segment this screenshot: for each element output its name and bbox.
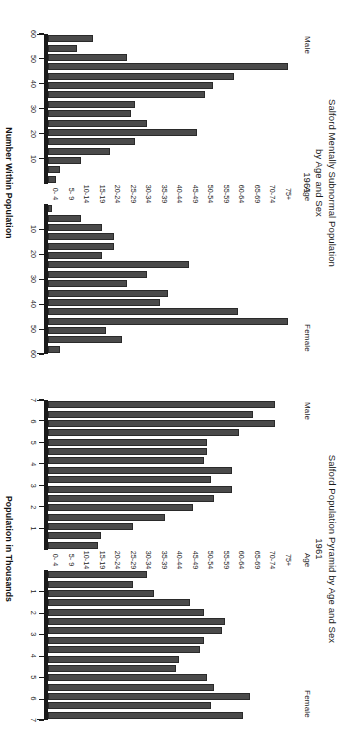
axis-tick	[39, 463, 44, 464]
bar-male-15-19	[48, 429, 239, 436]
axis-tick	[39, 254, 44, 255]
bar-slot	[48, 438, 296, 447]
bar-slot	[48, 466, 296, 475]
bar-male-65-69	[48, 523, 133, 530]
axis-tick-label: 30	[29, 105, 38, 113]
bar-slot	[48, 626, 296, 635]
axis-tick	[39, 158, 44, 159]
bar-male-35-39	[48, 101, 135, 108]
bar-female-75+	[48, 571, 147, 578]
bar-female-55-59	[48, 243, 114, 250]
bar-slot	[48, 223, 296, 232]
age-group-label: 75+	[284, 188, 293, 200]
age-group-label: 35-39	[160, 551, 169, 569]
axis-tick-label: 7	[29, 718, 38, 722]
bar-slot	[48, 90, 296, 99]
bar-slot	[48, 570, 296, 579]
axis-tick	[39, 677, 44, 678]
axis-tick	[39, 528, 44, 529]
axis-tick	[39, 506, 44, 507]
bar-slot	[48, 409, 296, 418]
female-baseline	[46, 204, 48, 354]
bar-slot	[48, 279, 296, 288]
axis-tick	[39, 720, 44, 721]
axis-tick-label: 50	[29, 325, 38, 333]
bar-slot	[48, 579, 296, 588]
bar-slot	[48, 307, 296, 316]
bar-slot	[48, 475, 296, 484]
age-group-label-slot: 20-24	[110, 184, 126, 204]
age-group-label: 10-14	[82, 185, 91, 203]
age-group-label-slot: 25-29	[126, 550, 142, 570]
bar-slot	[48, 251, 296, 260]
bar-male-5-9	[48, 411, 253, 418]
axis-tick	[39, 304, 44, 305]
bar-female-5-9	[48, 702, 211, 709]
bar-female-40-44	[48, 637, 204, 644]
title-line: by Age and Sex	[313, 0, 326, 366]
age-group-label: 15-19	[98, 185, 107, 203]
bar-slot	[48, 494, 296, 503]
male-bar-group	[48, 34, 296, 184]
age-group-label-slot: 35-39	[157, 184, 173, 204]
bar-slot	[48, 692, 296, 701]
male-value-axis: 1234567	[44, 400, 46, 550]
age-axis-header: Age	[303, 184, 312, 204]
male-value-axis: 102030405060	[44, 34, 46, 184]
axis-tick	[39, 485, 44, 486]
axis-tick	[39, 442, 44, 443]
bar-male-30-34	[48, 91, 205, 98]
bar-female-65-69	[48, 590, 154, 597]
female-series-label: Female	[303, 324, 312, 352]
bar-slot	[48, 128, 296, 137]
bar-male-50-54	[48, 129, 197, 136]
age-group-label-slot: 45-49	[188, 550, 204, 570]
bar-male-25-29	[48, 448, 207, 455]
age-group-label: 65-69	[253, 185, 262, 203]
bar-male-50-54	[48, 495, 215, 502]
axis-tick-label: 2	[29, 505, 38, 509]
age-group-label: 0- 4	[51, 188, 60, 200]
age-group-label-slot: 75+	[281, 184, 297, 204]
bar-slot	[48, 673, 296, 682]
bar-slot	[48, 428, 296, 437]
bar-male-55-59	[48, 138, 135, 145]
axis-tick	[39, 229, 44, 230]
rotated-figure-stage: Salford Mentally Subnormal Population by…	[0, 0, 344, 732]
age-group-label-slot: 70-74	[265, 184, 281, 204]
bar-slot	[48, 288, 296, 297]
bar-slot	[48, 298, 296, 307]
axis-tick-label: 10	[29, 155, 38, 163]
age-group-label: 20-24	[113, 551, 122, 569]
bar-slot	[48, 608, 296, 617]
bar-female-35-39	[48, 646, 200, 653]
age-group-label: 45-49	[191, 551, 200, 569]
bar-slot	[48, 400, 296, 409]
axis-tick-label: 3	[29, 484, 38, 488]
bar-slot	[48, 484, 296, 493]
bar-male-20-24	[48, 73, 234, 80]
bar-female-10-14	[48, 693, 250, 700]
bar-slot	[48, 447, 296, 456]
age-group-label-slot: 15-19	[95, 550, 111, 570]
axis-tick-label: 20	[29, 250, 38, 258]
bar-male-75+	[48, 542, 98, 549]
bar-slot	[48, 636, 296, 645]
age-group-label-slot: 30-34	[141, 550, 157, 570]
bar-slot	[48, 204, 296, 213]
axis-tick	[39, 33, 44, 34]
title-line: Salford Population Pyramid by Age and Se…	[326, 366, 339, 732]
age-group-label-slot: 5- 9	[64, 550, 80, 570]
bar-female-45-49	[48, 261, 189, 268]
bar-male-45-49	[48, 120, 147, 127]
axis-tick-label: 6	[29, 697, 38, 701]
bar-male-70-74	[48, 166, 60, 173]
axis-tick-label: 1	[29, 589, 38, 593]
age-group-label-slot: 30-34	[141, 184, 157, 204]
bar-slot	[48, 100, 296, 109]
bar-slot	[48, 701, 296, 710]
age-group-label-slot: 20-24	[110, 550, 126, 570]
age-axis-header: Age	[303, 550, 312, 570]
age-group-label: 60-64	[237, 551, 246, 569]
bar-slot	[48, 34, 296, 43]
